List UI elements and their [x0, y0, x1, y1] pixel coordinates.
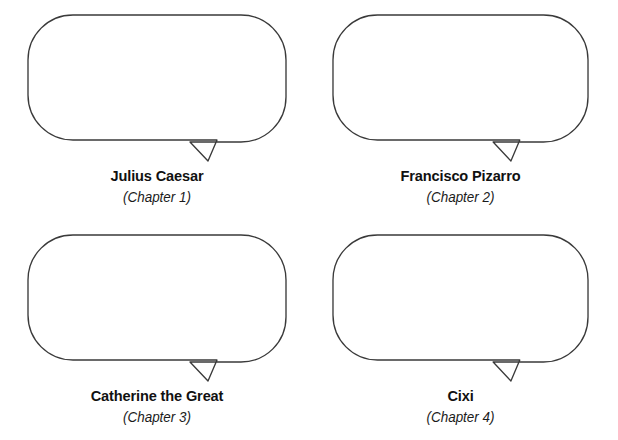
bubble-caption: Francisco Pizarro (Chapter 2)	[332, 166, 589, 207]
speech-bubble-grid: Julius Caesar (Chapter 1) Francisco Piza…	[0, 0, 618, 440]
speech-bubble-entry: Catherine the Great (Chapter 3)	[0, 220, 309, 440]
speech-bubble-icon	[332, 234, 589, 382]
speech-bubble-entry: Julius Caesar (Chapter 1)	[0, 0, 309, 220]
person-name: Catherine the Great	[35, 386, 279, 405]
person-name: Cixi	[340, 386, 582, 405]
speech-bubble-icon	[332, 14, 589, 162]
person-name: Francisco Pizarro	[340, 166, 582, 185]
speech-bubble-1[interactable]: Julius Caesar (Chapter 1)	[27, 14, 287, 162]
chapter-label: (Chapter 4)	[337, 409, 584, 427]
chapter-label: (Chapter 1)	[32, 189, 282, 207]
bubble-caption: Cixi (Chapter 4)	[332, 386, 589, 427]
speech-bubble-4[interactable]: Cixi (Chapter 4)	[332, 234, 589, 382]
speech-bubble-entry: Cixi (Chapter 4)	[309, 220, 618, 440]
speech-bubble-icon	[27, 234, 287, 382]
speech-bubble-entry: Francisco Pizarro (Chapter 2)	[309, 0, 618, 220]
bubble-caption: Julius Caesar (Chapter 1)	[27, 166, 287, 207]
person-name: Julius Caesar	[35, 166, 279, 185]
chapter-label: (Chapter 3)	[32, 409, 282, 427]
bubble-caption: Catherine the Great (Chapter 3)	[27, 386, 287, 427]
chapter-label: (Chapter 2)	[337, 189, 584, 207]
speech-bubble-icon	[27, 14, 287, 162]
worksheet-page: Julius Caesar (Chapter 1) Francisco Piza…	[0, 0, 618, 440]
speech-bubble-3[interactable]: Catherine the Great (Chapter 3)	[27, 234, 287, 382]
speech-bubble-2[interactable]: Francisco Pizarro (Chapter 2)	[332, 14, 589, 162]
